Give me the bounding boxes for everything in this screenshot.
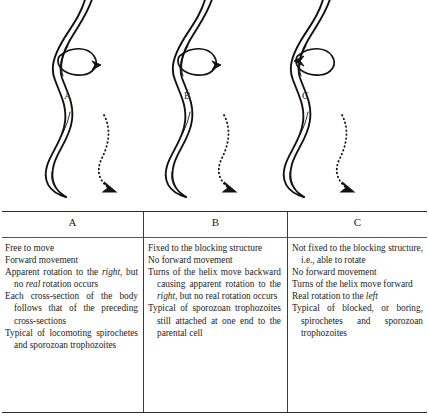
- table-entry: Turns of the helix move backward causing…: [148, 266, 281, 302]
- spirochete-diagram-c: [238, 0, 381, 209]
- table-entry: Each cross-section of the body follows t…: [5, 290, 138, 326]
- table-header-rule: [2, 237, 427, 238]
- figure-label-a: A: [64, 90, 72, 101]
- comparison-table: A B C Free to moveForward movementAppare…: [0, 209, 429, 418]
- table-entry: Typical of sporozoan trophozoites still …: [148, 302, 281, 338]
- table-column-body-c: Not fixed to the blocking structure, i.e…: [292, 242, 423, 339]
- table-entry: Typical of locomoting spirochetes and sp…: [5, 327, 138, 351]
- table-column-divider-2: [287, 211, 288, 412]
- figure-label-b: B: [184, 90, 191, 101]
- figure-area: A B: [0, 0, 429, 209]
- figure-label-c: C: [302, 90, 309, 101]
- table-entry: Apparent rotation to the right, but no r…: [5, 266, 138, 290]
- table-column-header-c: C: [288, 216, 427, 236]
- table-column-body-b: Fixed to the blocking structureNo forwar…: [148, 242, 281, 339]
- motion-arrowhead-b: [223, 182, 236, 192]
- table-top-rule: [2, 211, 427, 212]
- table-column-header-a: A: [2, 216, 143, 236]
- motion-arrowhead-c: [341, 182, 354, 192]
- table-entry: Real rotation to the left: [292, 290, 423, 302]
- table-entry: Forward movement: [5, 254, 138, 266]
- table-entry: No forward movement: [292, 266, 423, 278]
- table-entry: Not fixed to the blocking structure, i.e…: [292, 242, 423, 266]
- table-column-body-a: Free to moveForward movementApparent rot…: [5, 242, 138, 351]
- table-entry: Turns of the helix move forward: [292, 278, 423, 290]
- motion-arrowhead-a: [103, 182, 116, 192]
- table-column-header-b: B: [144, 216, 287, 236]
- table-column-divider-1: [143, 211, 144, 412]
- figure-panel-c: C: [238, 0, 381, 209]
- table-entry: Typical of blocked, or boring, spirochet…: [292, 302, 423, 338]
- table-entry: No forward movement: [148, 254, 281, 266]
- table-entry: Free to move: [5, 242, 138, 254]
- table-entry: Fixed to the blocking structure: [148, 242, 281, 254]
- table-bottom-rule: [2, 412, 427, 413]
